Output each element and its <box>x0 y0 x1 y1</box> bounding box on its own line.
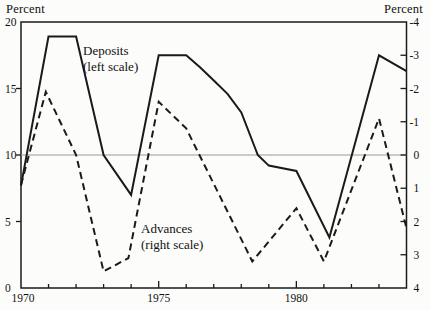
svg-text:2: 2 <box>414 216 420 228</box>
advances-annotation: Advances (right scale) <box>141 221 203 253</box>
svg-text:10: 10 <box>5 149 17 161</box>
svg-text:-2: -2 <box>410 83 420 95</box>
svg-text:1: 1 <box>414 182 420 194</box>
chart-canvas: 05101520-4-3-2-101234197019751980 <box>0 0 430 310</box>
svg-text:20: 20 <box>5 16 17 28</box>
svg-text:1970: 1970 <box>12 292 35 304</box>
svg-text:-4: -4 <box>410 16 420 28</box>
svg-text:0: 0 <box>5 282 11 294</box>
advances-annotation-line1: Advances <box>141 221 203 237</box>
svg-text:5: 5 <box>5 216 11 228</box>
figure: Percent Percent 05101520-4-3-2-101234197… <box>0 0 430 310</box>
svg-text:1980: 1980 <box>285 292 308 304</box>
svg-text:15: 15 <box>5 83 17 95</box>
svg-text:1975: 1975 <box>147 292 170 304</box>
deposits-annotation-line2: (left scale) <box>83 59 138 75</box>
advances-annotation-line2: (right scale) <box>141 237 203 253</box>
deposits-annotation-line1: Deposits <box>83 43 138 59</box>
svg-text:0: 0 <box>414 149 420 161</box>
svg-text:-1: -1 <box>410 116 420 128</box>
svg-text:-3: -3 <box>410 49 420 61</box>
svg-text:4: 4 <box>414 282 420 294</box>
svg-text:3: 3 <box>414 249 420 261</box>
deposits-annotation: Deposits (left scale) <box>83 43 138 75</box>
